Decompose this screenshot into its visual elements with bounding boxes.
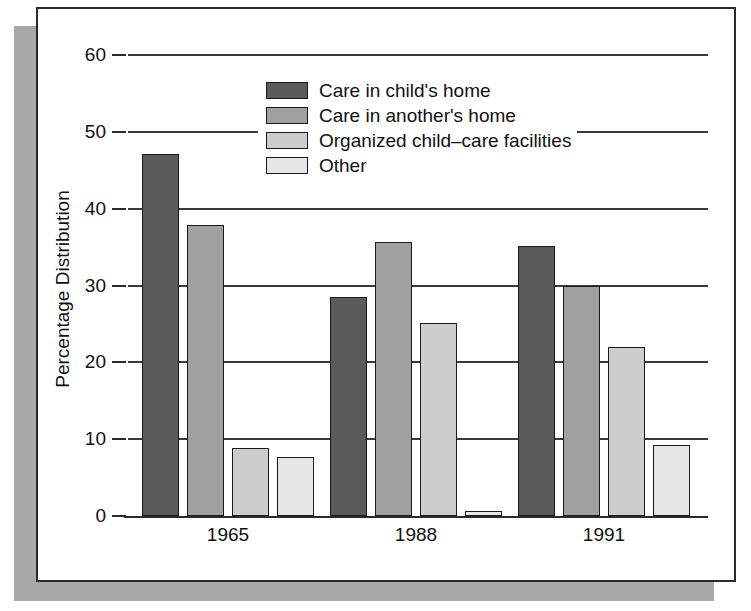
legend-label-4: Other — [319, 156, 367, 175]
legend-item-3: Organized child–care facilities — [266, 128, 571, 153]
legend-swatch-3 — [266, 132, 308, 149]
legend-swatch-2 — [266, 107, 308, 124]
legend-item-2: Care in another's home — [266, 103, 571, 128]
legend-item-4: Other — [266, 153, 571, 178]
chart-legend: Care in child's homeCare in another's ho… — [262, 74, 577, 182]
legend-label-3: Organized child–care facilities — [319, 131, 571, 150]
legend-swatch-1 — [266, 82, 308, 99]
legend-label-2: Care in another's home — [319, 106, 516, 125]
legend-item-1: Care in child's home — [266, 78, 571, 103]
legend-label-1: Care in child's home — [319, 81, 491, 100]
legend-swatch-4 — [266, 157, 308, 174]
